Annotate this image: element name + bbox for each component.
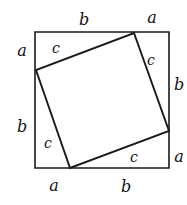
side-label-bottom-a: a [49,178,59,194]
side-label-right-b: b [174,77,184,93]
side-label-bottom-b: b [121,179,131,195]
side-label-right-a: a [174,149,184,165]
side-label-top-a: a [147,10,157,26]
side-label-left-a: a [17,43,27,59]
diagram-canvas [0,0,187,205]
hypotenuse-label-top-right-c: c [147,53,155,67]
hypotenuse-label-bottom-left-c: c [44,136,52,150]
pythagorean-proof-diagram: b a a b b a a b c c c c [0,0,187,205]
hypotenuse-label-top-left-c: c [52,41,60,55]
hypotenuse-label-bottom-right-c: c [130,150,138,164]
side-label-left-b: b [17,119,27,135]
side-label-top-b: b [79,12,89,28]
